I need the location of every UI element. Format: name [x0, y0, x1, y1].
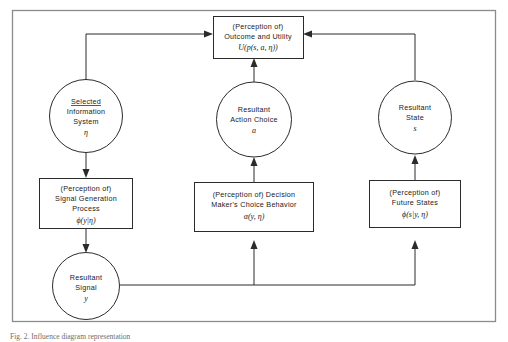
outcome-box-line1: (Perception of): [233, 22, 284, 31]
node-selected-information-system: Selected Information System η: [50, 80, 123, 153]
node-future-states-box: (Perception of) Future States ϕ(s|y, η): [370, 181, 461, 228]
resultant-signal-line2: Signal: [75, 283, 97, 292]
edge-selected-system-to-signal-generation: [83, 153, 90, 178]
node-resultant-state: Resultant State s: [379, 81, 452, 154]
selected-system-line2: Information: [67, 107, 106, 116]
future-states-line2: Future States: [392, 198, 439, 207]
edge-choice-behavior-to-action-choice: [251, 157, 258, 182]
node-resultant-signal: Resultant Signal y: [53, 253, 120, 320]
edge-resultant-signal-to-future-states: [254, 240, 419, 285]
figure-root: (Perception of) Outcome and Utility U(p(…: [0, 0, 508, 342]
action-choice-line1: Resultant: [238, 105, 271, 114]
outcome-box-line2: Outcome and Utility: [224, 32, 292, 41]
edge-future-states-to-resultant-state: [412, 155, 419, 180]
node-outcome-and-utility-box: (Perception of) Outcome and Utility U(p(…: [214, 17, 304, 59]
edge-resultant-signal-to-choice-behavior: [120, 240, 258, 285]
choice-behavior-line2: Maker's Choice Behavior: [211, 200, 297, 209]
signal-generation-line1: (Perception of): [61, 184, 112, 193]
resultant-signal-symbol: y: [83, 294, 88, 303]
action-choice-line2: Action Choice: [230, 115, 278, 124]
edge-signal-generation-to-resultant-signal: [83, 229, 90, 253]
node-signal-generation-box: (Perception of) Signal Generation Proces…: [40, 179, 133, 229]
resultant-state-line2: State: [406, 113, 424, 122]
node-resultant-action-choice: Resultant Action Choice a: [217, 82, 292, 157]
resultant-state-line1: Resultant: [399, 103, 432, 112]
choice-behavior-formula: α(y, η): [244, 212, 265, 221]
edge-selected-system-to-outcome: [86, 31, 213, 81]
edge-resultant-state-to-outcome: [303, 31, 415, 81]
node-choice-behavior-box: (Perception of) Decision Maker's Choice …: [195, 183, 314, 232]
outcome-box-formula: U(p(s, a, η)): [238, 43, 278, 52]
future-states-formula: ϕ(s|y, η): [402, 210, 428, 219]
resultant-state-symbol: s: [413, 124, 416, 133]
selected-system-symbol: η: [84, 128, 88, 137]
resultant-signal-line1: Resultant: [70, 273, 103, 282]
selected-system-line1: Selected: [71, 97, 101, 106]
choice-behavior-line1: (Perception of) Decision: [213, 190, 296, 199]
signal-generation-formula: ϕ(y|η): [76, 216, 96, 225]
figure-caption: Fig. 2. Influence diagram representation: [10, 331, 130, 342]
signal-generation-line3: Process: [72, 204, 100, 213]
future-states-line1: (Perception of): [390, 188, 441, 197]
selected-system-line3: System: [73, 117, 98, 126]
signal-generation-line2: Signal Generation: [55, 194, 117, 203]
influence-diagram: (Perception of) Outcome and Utility U(p(…: [0, 0, 508, 342]
action-choice-symbol: a: [252, 126, 256, 135]
edge-action-choice-to-outcome: [251, 58, 258, 82]
